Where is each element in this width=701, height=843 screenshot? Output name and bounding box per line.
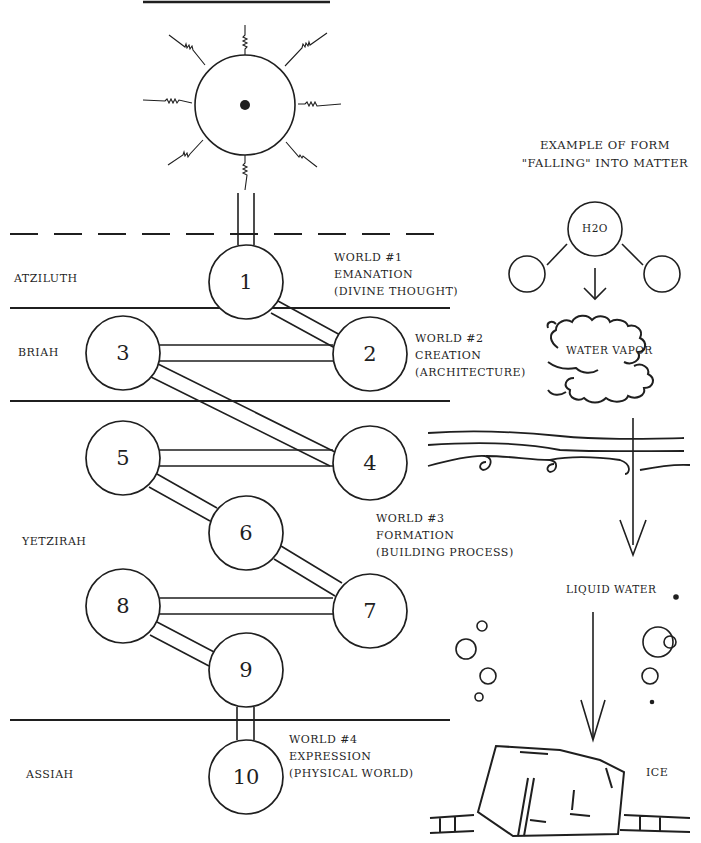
long-arrow-down-icon bbox=[581, 612, 605, 740]
sun-icon bbox=[143, 25, 341, 190]
bubbles-icon bbox=[456, 595, 678, 704]
world-name-briah: Briah bbox=[18, 346, 59, 359]
node-4-label: 4 bbox=[340, 449, 400, 477]
node-5-label: 5 bbox=[93, 444, 153, 472]
node-8-label: 8 bbox=[93, 592, 153, 620]
world-4-description: World #4 Expression (Physical World) bbox=[289, 731, 414, 782]
water-vapor-label: Water Vapor bbox=[566, 344, 653, 356]
node-9-label: 9 bbox=[216, 656, 276, 684]
water-waves-icon bbox=[428, 432, 690, 474]
world-3-description: World #3 Formation (Building Process) bbox=[376, 510, 514, 561]
example-title: Example of Form "Falling" into Matter bbox=[510, 136, 700, 172]
cloud-icon bbox=[548, 316, 653, 403]
world-1-description: World #1 Emanation (Divine Thought) bbox=[334, 249, 458, 300]
world-name-atziluth: Atziluth bbox=[14, 272, 78, 285]
h2o-label: H2O bbox=[582, 222, 608, 234]
node-10-label: 10 bbox=[216, 763, 276, 791]
world-name-assiah: Assiah bbox=[26, 768, 74, 781]
tree-diagram bbox=[0, 0, 701, 843]
ice-label: Ice bbox=[646, 766, 668, 779]
node-2-label: 2 bbox=[340, 340, 400, 368]
world-name-yetzirah: Yetzirah bbox=[22, 535, 86, 548]
ice-cube-icon bbox=[430, 746, 690, 836]
node-7-label: 7 bbox=[340, 597, 400, 625]
arrow-down-icon bbox=[584, 268, 606, 299]
node-6-label: 6 bbox=[216, 519, 276, 547]
node-1-label: 1 bbox=[216, 268, 276, 296]
world-2-description: World #2 Creation (Architecture) bbox=[415, 330, 526, 381]
liquid-water-label: Liquid Water bbox=[566, 583, 656, 595]
node-3-label: 3 bbox=[93, 339, 153, 367]
